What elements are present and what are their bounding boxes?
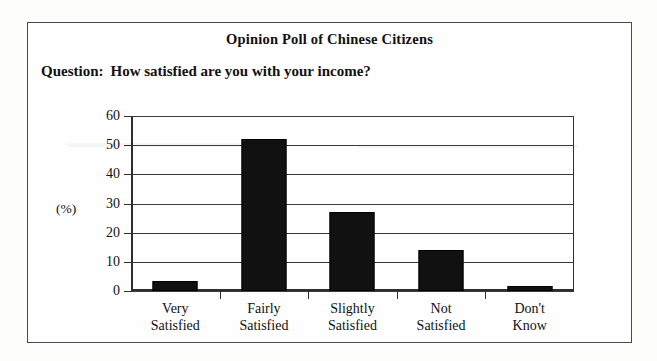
- y-axis-unit-label: (%): [56, 201, 76, 217]
- x-tick-label-line: Know: [513, 318, 547, 335]
- x-tick: [485, 291, 486, 299]
- question-label: Question:: [41, 63, 104, 79]
- plot-area: 0102030405060 VerySatisfiedFairlySatisfi…: [131, 116, 574, 291]
- y-tick-label-0: 0: [113, 284, 120, 298]
- bar: [507, 286, 552, 291]
- x-tick-label-line: Satisfied: [239, 318, 288, 335]
- bar-group: FairlySatisfied: [220, 116, 309, 291]
- bar: [241, 139, 286, 291]
- x-tick: [220, 291, 221, 299]
- bar-group: NotSatisfied: [397, 116, 486, 291]
- gridline-0: [131, 291, 574, 292]
- x-tick-label-line: Satisfied: [328, 318, 377, 335]
- question-line: Question:How satisfied are you with your…: [41, 63, 371, 80]
- bar: [419, 250, 464, 291]
- x-tick-label-line: Not: [417, 301, 466, 318]
- y-tick-label-60: 60: [106, 109, 120, 123]
- x-tick: [308, 291, 309, 299]
- x-tick: [397, 291, 398, 299]
- x-tick-label: VerySatisfied: [151, 301, 200, 334]
- question-text: How satisfied are you with your income?: [111, 63, 371, 79]
- y-tick-label-40: 40: [106, 167, 120, 181]
- bar: [153, 281, 198, 291]
- x-tick-label-line: Slightly: [328, 301, 377, 318]
- bar-group: SlightlySatisfied: [308, 116, 397, 291]
- y-tick-label-10: 10: [106, 255, 120, 269]
- x-tick-label-line: Fairly: [239, 301, 288, 318]
- x-tick-label-line: Don't: [513, 301, 547, 318]
- x-tick-label: SlightlySatisfied: [328, 301, 377, 334]
- y-tick-label-30: 30: [106, 196, 120, 210]
- x-tick-label: FairlySatisfied: [239, 301, 288, 334]
- x-tick-label-line: Very: [151, 301, 200, 318]
- bar-group: Don'tKnow: [485, 116, 574, 291]
- y-tick-label-50: 50: [106, 138, 120, 152]
- chart-frame: Opinion Poll of Chinese Citizens Questio…: [27, 22, 632, 343]
- x-tick-label: NotSatisfied: [417, 301, 466, 334]
- y-tick-label-20: 20: [106, 226, 120, 240]
- page-title: Opinion Poll of Chinese Citizens: [28, 31, 631, 48]
- bar-group: VerySatisfied: [131, 116, 220, 291]
- x-tick-label-line: Satisfied: [417, 318, 466, 335]
- x-tick-label-line: Satisfied: [151, 318, 200, 335]
- bar: [330, 212, 375, 291]
- y-tick-0: [124, 291, 133, 292]
- x-tick-label: Don'tKnow: [513, 301, 547, 334]
